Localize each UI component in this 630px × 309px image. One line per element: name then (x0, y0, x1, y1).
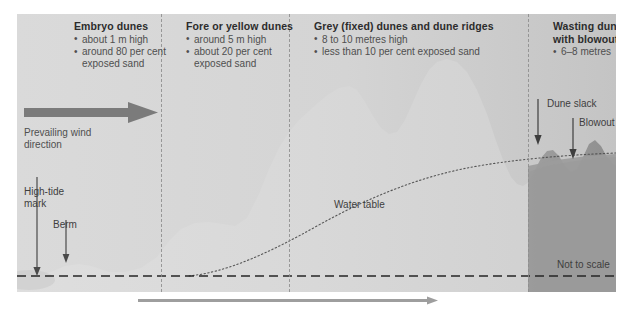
zone-bullet: around 5 m high (186, 34, 298, 46)
dune-succession-diagram: Prevailing wind direction High-tide mark… (17, 14, 616, 292)
water-table-label: Water table (334, 199, 385, 211)
prevailing-wind-label: Prevailing wind direction (24, 127, 144, 152)
zone-header-wasting: Wasting dunes with blowouts 6–8 metres (553, 20, 616, 59)
dune-slack-label: Dune slack (547, 98, 596, 110)
high-tide-mark-label: High-tide mark (24, 186, 82, 210)
wind-line-2: direction (24, 139, 62, 150)
succession-direction-arrow-icon (138, 296, 438, 305)
zone-bullet: 6–8 metres (553, 46, 616, 58)
zone-bullets-fore: around 5 m high about 20 per cent expose… (186, 34, 298, 71)
zone-bullet: 8 to 10 metres high (314, 34, 544, 46)
zone-header-embryo: Embryo dunes about 1 m high around 80 pe… (74, 20, 174, 71)
prevailing-wind-arrow-icon (24, 102, 158, 128)
zone-title-grey: Grey (fixed) dunes and dune ridges (314, 20, 544, 33)
wind-line-1: Prevailing wind (24, 127, 91, 138)
zone-header-grey: Grey (fixed) dunes and dune ridges 8 to … (314, 20, 544, 59)
blowout-label: Blowout (579, 117, 615, 129)
zone-title-fore: Fore or yellow dunes (186, 20, 298, 33)
zone-bullets-grey: 8 to 10 metres high less than 10 per cen… (314, 34, 544, 59)
not-to-scale-label: Not to scale (557, 259, 610, 271)
zone-title-embryo: Embryo dunes (74, 20, 174, 33)
zone-bullet: around 80 per cent exposed sand (74, 46, 174, 70)
berm-label: Berm (53, 219, 77, 231)
zone-bullets-wasting: 6–8 metres (553, 46, 616, 58)
zone-bullet: about 20 per cent exposed sand (186, 46, 298, 70)
zone-header-fore: Fore or yellow dunes around 5 m high abo… (186, 20, 298, 71)
zone-bullet: less than 10 per cent exposed sand (314, 46, 544, 58)
zone-bullet: about 1 m high (74, 34, 174, 46)
zone-bullets-embryo: about 1 m high around 80 per cent expose… (74, 34, 174, 71)
zone-title-wasting: Wasting dunes with blowouts (553, 20, 616, 45)
